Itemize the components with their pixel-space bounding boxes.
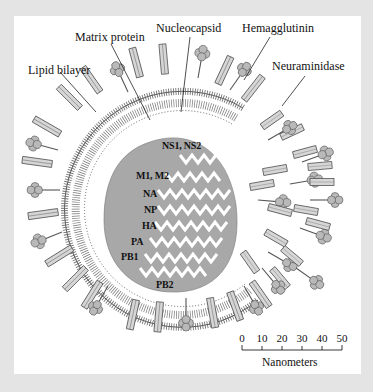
rna-label-ha: HA [142,221,157,231]
label-lipid-bilayer: Lipid bilayer [28,64,90,76]
label-nucleocapsid: Nucleocapsid [156,22,221,34]
scale-tick-30: 30 [297,333,308,344]
rna-label-pa: PA [131,237,143,247]
scale-tick-10: 10 [257,333,268,344]
scale-tick-50: 50 [337,333,348,344]
nucleocapsid-core [104,138,237,292]
scale-tick-20: 20 [277,333,288,344]
rna-label-pb2: PB2 [156,280,173,290]
rna-label-np: NP [144,205,157,215]
rna-label-pb1: PB1 [121,252,138,262]
label-hemagglutinin: Hemagglutinin [242,22,314,34]
leader-lines [60,37,305,120]
scale-bar [242,345,342,350]
rna-label-ns: NS1, NS2 [162,141,201,151]
scale-tick-40: 40 [317,333,328,344]
rna-label-m: M1, M2 [136,171,169,181]
label-neuraminidase: Neuraminidase [272,60,345,72]
rna-label-na: NA [143,189,157,199]
scale-tick-0: 0 [239,333,245,344]
scale-unit-label: Nanometers [262,357,318,369]
floating-spikes [240,110,343,298]
label-matrix-protein: Matrix protein [75,31,145,43]
